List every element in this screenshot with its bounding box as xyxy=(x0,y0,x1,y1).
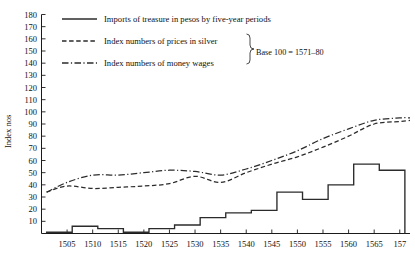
x-tick-label: 1565 xyxy=(366,239,383,249)
y-axis-title: Index nos xyxy=(3,115,13,148)
y-tick-label: 100 xyxy=(24,107,37,117)
x-tick-label: 1540 xyxy=(238,239,255,249)
x-tick-label: 1520 xyxy=(135,239,152,249)
y-tick-label: 170 xyxy=(24,22,37,32)
legend-item-label-0: Imports of treasure in pesos by five-yea… xyxy=(104,14,271,24)
y-tick-label: 30 xyxy=(29,192,38,202)
y-tick-label: 60 xyxy=(29,156,38,166)
y-tick-label: 160 xyxy=(24,34,37,44)
y-tick-label: 50 xyxy=(29,168,38,178)
series-prices-in-silver xyxy=(47,120,410,192)
chart-svg: 1020304050607080901001101201301401501601… xyxy=(0,0,415,256)
y-tick-label: 20 xyxy=(29,204,38,214)
y-tick-label: 10 xyxy=(29,216,38,226)
x-tick-label: 1560 xyxy=(340,239,357,249)
y-tick-label: 120 xyxy=(24,83,37,93)
x-tick-label: 1515 xyxy=(110,239,127,249)
legend: Imports of treasure in pesos by five-yea… xyxy=(62,14,324,68)
x-tick-label: 1545 xyxy=(263,239,280,249)
legend-item-label-2: Index numbers of money wages xyxy=(104,58,214,68)
legend-item-label-1: Index numbers of prices in silver xyxy=(104,36,217,46)
x-tick-label: 1505 xyxy=(59,239,76,249)
y-tick-label: 80 xyxy=(29,131,38,141)
x-tick-label: 1530 xyxy=(187,239,204,249)
x-tick-label: 157 xyxy=(393,239,406,249)
legend-brace xyxy=(247,34,255,64)
chart-container: 1020304050607080901001101201301401501601… xyxy=(0,0,415,256)
y-tick-label: 130 xyxy=(24,70,37,80)
series-treasure-imports-step xyxy=(47,164,405,233)
y-tick-label: 110 xyxy=(25,95,37,105)
x-tick-label: 1510 xyxy=(84,239,101,249)
y-tick-label: 150 xyxy=(24,46,37,56)
x-tick-label: 1550 xyxy=(289,239,306,249)
y-tick-label: 140 xyxy=(24,58,37,68)
series-group xyxy=(47,118,410,234)
x-tick-label: 1535 xyxy=(212,239,229,249)
y-tick-label: 70 xyxy=(29,143,38,153)
y-axis-ticks: 1020304050607080901001101201301401501601… xyxy=(24,10,45,227)
x-tick-label: 1555 xyxy=(314,239,331,249)
axes-group xyxy=(42,15,411,234)
y-tick-label: 90 xyxy=(29,119,38,129)
y-tick-label: 40 xyxy=(29,180,38,190)
legend-brace-note: Base 100 = 1571–80 xyxy=(256,48,324,57)
y-tick-label: 180 xyxy=(24,10,37,20)
x-axis-ticks: 1505151015151520152515301535154015451550… xyxy=(59,230,407,249)
x-tick-label: 1525 xyxy=(161,239,178,249)
